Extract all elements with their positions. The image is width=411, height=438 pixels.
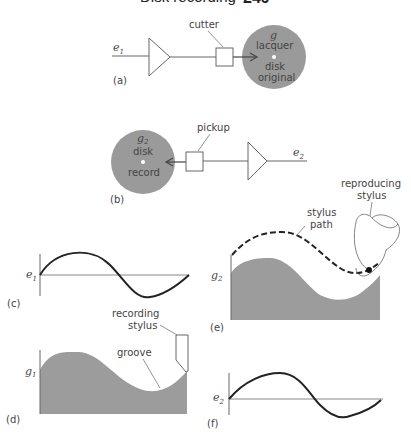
- panel-f-output-waveform: e2 (f): [207, 373, 383, 429]
- header-page-number: 249: [243, 0, 270, 6]
- disk-label-disk: disk: [265, 61, 285, 72]
- recording-stylus-label-line2: stylus: [128, 320, 157, 331]
- header-title: Disk recording: [140, 0, 236, 5]
- disk-label-original: original: [258, 72, 295, 83]
- stylus-path-label-line1: stylus: [307, 207, 336, 218]
- cutter-label: cutter: [189, 19, 220, 30]
- groove-label: groove: [117, 347, 152, 358]
- disk-spindle-hole: [272, 55, 276, 59]
- panel-tag-e: (e): [210, 322, 224, 333]
- recording-stylus-label-line1: recording: [112, 308, 159, 319]
- axis-label-g2: g2: [211, 269, 223, 283]
- disk-label-record: record: [128, 167, 160, 178]
- panel-tag-a: (a): [113, 75, 127, 86]
- groove-leader-line: [143, 359, 160, 388]
- recording-stylus-shape: [176, 335, 188, 372]
- panel-a-recording-chain: e1 cutter g lacquer disk original (a): [112, 19, 306, 89]
- e2-sine-curve: [229, 373, 381, 417]
- panel-b-playback-chain: g2 disk record pickup e2 (b): [110, 122, 307, 205]
- axis-label-e1: e1: [26, 268, 37, 283]
- input-label-e1: e1: [113, 41, 124, 56]
- reproducing-stylus-leader: [370, 202, 372, 216]
- axis-label-g1: g1: [25, 365, 37, 379]
- disk-recording-figure: Disk recording 249 e1 cutter g lacquer d…: [0, 0, 411, 438]
- panel-tag-b: (b): [110, 194, 124, 205]
- reproducing-stylus-outline: [354, 214, 399, 276]
- stylus-contact-point: [366, 267, 372, 273]
- panel-tag-f: (f): [207, 418, 218, 429]
- pickup-box: [186, 152, 203, 171]
- disk-spindle-hole: [141, 160, 145, 164]
- panel-tag-d: (d): [6, 414, 20, 425]
- cutter-box: [216, 48, 233, 66]
- axis-label-e2: e2: [213, 391, 225, 406]
- pickup-leader-line: [198, 134, 210, 151]
- stylus-path-label-line2: path: [310, 219, 333, 230]
- cutter-leader-line: [208, 31, 223, 47]
- recording-stylus-leader: [160, 325, 177, 335]
- page-header: Disk recording 249: [140, 0, 270, 6]
- panel-tag-c: (c): [7, 298, 20, 309]
- output-label-e2: e2: [293, 146, 305, 161]
- reproducing-stylus-label-line2: stylus: [357, 190, 386, 201]
- groove-fill: [231, 258, 380, 320]
- stylus-path-leader: [296, 226, 305, 236]
- groove-fill: [40, 352, 187, 414]
- pickup-label: pickup: [197, 122, 230, 133]
- panel-c-input-waveform: e1 (c): [7, 253, 189, 309]
- amplifier-triangle-icon: [248, 142, 267, 180]
- reproducing-stylus-label-line1: reproducing: [341, 178, 401, 189]
- amplifier-triangle-icon: [149, 38, 170, 76]
- disk-label-disk: disk: [133, 146, 153, 157]
- panel-d-recording-groove: g1 recording stylus groove (d): [6, 308, 188, 425]
- panel-e-playback-groove: g2 stylus path reproducing stylus (e): [210, 178, 401, 333]
- disk-label-lacquer: lacquer: [256, 40, 294, 51]
